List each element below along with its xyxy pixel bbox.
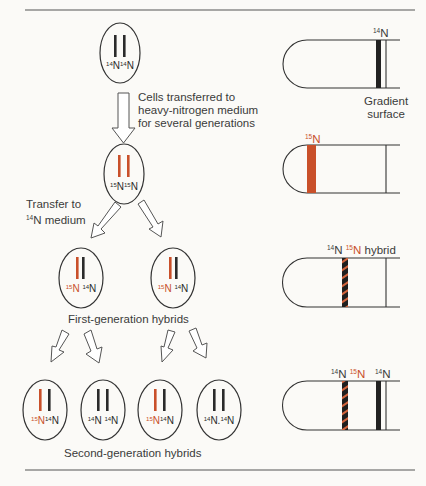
- arrow-gen2-b-icon: [84, 330, 102, 363]
- tube1-label: 14N: [373, 24, 389, 40]
- cell-gen2-b-label: 14N 14N: [88, 415, 119, 426]
- centrifuge-tube-1: [283, 40, 400, 88]
- tube4-labels: 14N 15N 14N: [331, 365, 390, 381]
- cell-gen2-b: [81, 380, 125, 440]
- cell-gen1-right-label: 15N 14N: [158, 283, 189, 294]
- centrifuge-tube-3: [283, 258, 401, 307]
- arrow-gen2-a-icon: [51, 330, 69, 362]
- arrow-gen2-c-icon: [161, 330, 175, 362]
- cell-gen1-right: [151, 248, 195, 308]
- caption-heavy-transfer: Cells transferred to heavy-nitrogen medi…: [138, 91, 258, 130]
- centrifuge-tube-2: [283, 145, 400, 193]
- cell-gen1-left: [59, 248, 103, 308]
- caption-second-gen: Second-generation hybrids: [64, 447, 201, 460]
- cell-parent: [100, 23, 140, 83]
- arrow-down-icon: [112, 93, 135, 143]
- centrifuge-tube-4: [283, 381, 401, 430]
- caption-light-transfer: Transfer to 14N medium: [26, 198, 86, 227]
- cell-gen2-c-label: 15N14N: [146, 415, 174, 426]
- tube3-label: 14N 15N hybrid: [327, 241, 396, 257]
- cell-gen1-left-label: 15N 14N: [66, 283, 97, 294]
- cell-gen2-c: [138, 380, 182, 440]
- arrow-down-left-icon: [91, 202, 121, 238]
- tube2-label: 15N: [305, 130, 321, 146]
- arrow-gen2-d-icon: [189, 328, 207, 358]
- caption-first-gen: First-generation hybrids: [68, 313, 189, 326]
- cell-gen2-d: [197, 380, 241, 440]
- cell-heavy: [104, 144, 144, 204]
- tube1-caption: Gradient surface: [364, 95, 408, 121]
- arrow-down-right-icon: [138, 200, 163, 237]
- cell-gen2-a: [23, 380, 67, 440]
- cell-heavy-label: 15N15N: [110, 181, 138, 192]
- cell-gen2-d-label: 14N.14N: [204, 415, 235, 426]
- cell-parent-label: 14N14N: [106, 60, 134, 71]
- cell-gen2-a-label: 15N14N: [31, 415, 59, 426]
